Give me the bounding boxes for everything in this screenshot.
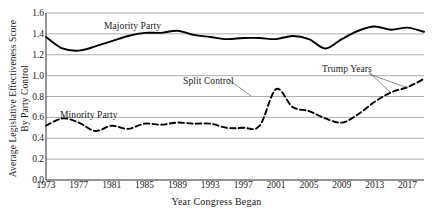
annotation-minority-party: Minority Party <box>60 110 118 120</box>
x-tick-label: 2013 <box>365 180 384 190</box>
y-tick-label: 0.4 <box>18 133 44 143</box>
x-tick-label: 1981 <box>102 180 121 190</box>
x-tick-label: 1997 <box>234 180 253 190</box>
y-tick-label: 1.0 <box>18 71 44 81</box>
gridlines <box>46 13 424 159</box>
annotation-majority-party: Majority Party <box>104 21 161 31</box>
x-tick-label: 2017 <box>398 180 417 190</box>
x-axis-title: Year Congress Began <box>0 196 433 207</box>
x-axis-tick-labels: 1973197719811985198919931997200120052009… <box>0 180 433 194</box>
annotation-trump-years: Trump Years <box>322 64 372 74</box>
y-tick-label: 1.6 <box>18 8 44 18</box>
y-tick-label: 0.6 <box>18 112 44 122</box>
x-tick-label: 1985 <box>135 180 154 190</box>
x-tick-label: 2001 <box>267 180 286 190</box>
y-tick-label: 1.4 <box>18 29 44 39</box>
x-tick-label: 1977 <box>69 180 88 190</box>
x-tick-label: 2009 <box>332 180 351 190</box>
annotation-split-control: Split Control <box>183 76 234 86</box>
chart-figure: Average Legislative Effectiveness Score … <box>0 0 433 218</box>
x-tick-label: 2005 <box>299 180 318 190</box>
x-tick-label: 1993 <box>201 180 220 190</box>
y-tick-label: 0.8 <box>18 92 44 102</box>
x-tick-label: 1989 <box>168 180 187 190</box>
x-tick-label: 1973 <box>37 180 56 190</box>
y-tick-label: 0.2 <box>18 154 44 164</box>
y-tick-label: 1.2 <box>18 50 44 60</box>
